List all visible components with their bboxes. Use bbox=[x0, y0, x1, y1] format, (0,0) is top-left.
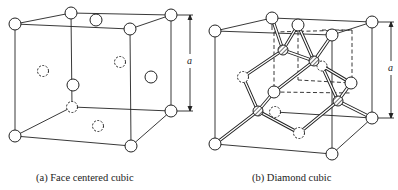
atom-interior bbox=[309, 56, 319, 66]
atom-interior bbox=[278, 45, 288, 55]
atom bbox=[209, 25, 221, 37]
atom bbox=[209, 138, 221, 150]
atom-hidden bbox=[93, 121, 104, 132]
atom-hidden bbox=[294, 128, 305, 139]
atom bbox=[165, 105, 177, 117]
atom bbox=[125, 140, 137, 152]
atom-hidden bbox=[115, 57, 126, 68]
atom bbox=[124, 23, 136, 35]
atom bbox=[266, 12, 278, 24]
atom-interior bbox=[253, 106, 263, 116]
atom bbox=[67, 79, 79, 91]
atom-hidden bbox=[238, 72, 249, 83]
atom bbox=[65, 7, 77, 19]
atom-hidden bbox=[67, 102, 78, 113]
atom-hidden bbox=[270, 107, 281, 118]
atom-interior bbox=[333, 96, 343, 106]
atom bbox=[90, 14, 102, 26]
atom bbox=[326, 29, 338, 41]
atom bbox=[165, 9, 177, 21]
atom bbox=[366, 112, 378, 124]
atom bbox=[345, 77, 357, 89]
atom bbox=[268, 86, 280, 98]
atom bbox=[292, 19, 304, 31]
atom bbox=[9, 18, 21, 30]
fcc-caption: (a) Face centered cubic bbox=[36, 172, 134, 183]
fcc-lattice-constant-label: a bbox=[187, 55, 192, 66]
crystal-structures-diagram bbox=[0, 0, 398, 190]
fcc-atoms bbox=[9, 7, 177, 152]
atom bbox=[145, 71, 157, 83]
diamond-lattice-constant-label: a bbox=[388, 62, 393, 73]
atom-hidden bbox=[38, 66, 49, 77]
diamond-caption: (b) Diamond cubic bbox=[252, 172, 331, 183]
atom bbox=[366, 16, 378, 28]
atom bbox=[326, 148, 338, 160]
atom bbox=[9, 130, 21, 142]
